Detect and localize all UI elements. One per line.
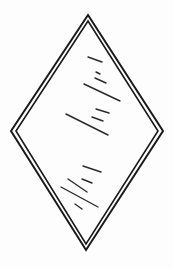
diamond-outer-outline — [11, 15, 163, 250]
glare-stroke — [83, 166, 101, 172]
glare-stroke — [88, 57, 102, 62]
glare-stroke — [68, 179, 87, 192]
drawing-canvas — [0, 0, 173, 268]
glare-stroke — [61, 187, 98, 207]
glare-stroke — [95, 78, 106, 83]
glare-stroke — [96, 109, 109, 113]
diamond-inner-outline — [16, 21, 158, 244]
glare-stroke — [96, 72, 100, 74]
glare-hatching — [61, 57, 120, 209]
glare-stroke — [92, 117, 103, 121]
glare-stroke — [84, 84, 120, 101]
glare-stroke — [66, 114, 108, 135]
diamond-pane-icon — [0, 0, 173, 268]
glare-stroke — [75, 204, 82, 209]
glare-stroke — [82, 179, 92, 183]
